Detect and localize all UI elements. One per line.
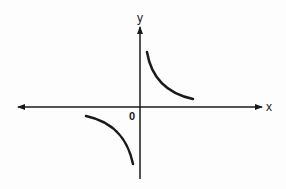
curve-branch-quadrant-3 xyxy=(86,116,133,164)
origin-label: 0 xyxy=(129,110,135,122)
graph-canvas xyxy=(0,0,286,189)
hyperbola-graph: y x 0 xyxy=(0,0,286,189)
x-axis-label: x xyxy=(266,101,272,113)
y-axis-label: y xyxy=(137,12,143,24)
curve-branch-quadrant-1 xyxy=(147,52,193,99)
